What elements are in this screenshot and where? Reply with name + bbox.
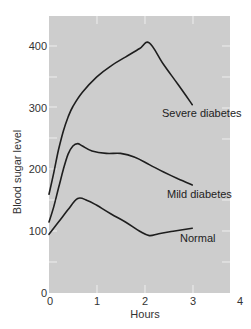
y-tick-label: 100 [29, 225, 47, 237]
x-tick-label: 4 [237, 295, 243, 307]
y-axis-title: Blood sugar level [11, 130, 23, 214]
x-tick-label: 3 [190, 295, 196, 307]
x-axis-title: Hours [130, 308, 160, 320]
y-tick-label: 200 [29, 163, 47, 175]
plot-area [49, 16, 230, 293]
series-label-severe-diabetes: Severe diabetes [162, 107, 242, 119]
y-tick-label: 400 [29, 40, 47, 52]
y-tick-label: 300 [29, 102, 47, 114]
series-label-normal: Normal [180, 232, 215, 244]
series-label-mild-diabetes: Mild diabetes [167, 188, 232, 200]
x-tick-label: 1 [94, 295, 100, 307]
x-tick-label: 2 [142, 295, 148, 307]
x-tick-label: 0 [47, 295, 53, 307]
blood-sugar-chart: 0 100 200 300 400 Blood sugar level 0 1 … [0, 0, 251, 329]
